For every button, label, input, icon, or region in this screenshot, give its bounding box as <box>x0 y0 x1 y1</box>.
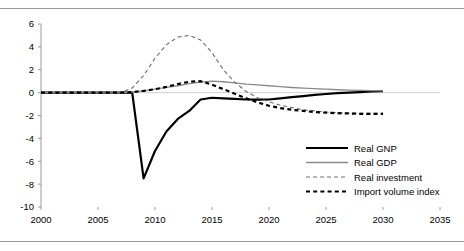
bottom-divider-rule <box>0 241 464 242</box>
line-chart: 6420-2-4-6-8-10 200020052010201520202025… <box>0 0 464 251</box>
x-tick-label: 2005 <box>87 214 108 225</box>
x-tick-label: 2015 <box>201 214 222 225</box>
x-tick-label: 2000 <box>30 214 51 225</box>
x-tick-label: 2025 <box>315 214 336 225</box>
legend-label-import-volume-index: Import volume index <box>354 186 440 197</box>
legend-label-real-gdp: Real GDP <box>354 157 397 168</box>
y-tick-label: 6 <box>29 18 34 29</box>
legend-label-real-investment: Real investment <box>354 172 422 183</box>
top-divider-rule <box>0 8 464 9</box>
y-tick-label: -8 <box>26 179 34 190</box>
y-axis-tick-labels: 6420-2-4-6-8-10 <box>20 18 34 212</box>
y-tick-label: -2 <box>26 110 34 121</box>
x-axis-tick-labels: 20002005201020152020202520302035 <box>30 214 450 225</box>
x-tick-label: 2010 <box>144 214 165 225</box>
figure-container: 6420-2-4-6-8-10 200020052010201520202025… <box>0 0 464 251</box>
y-tick-label: -4 <box>26 133 34 144</box>
x-tick-label: 2030 <box>372 214 393 225</box>
x-axis-ticks <box>41 207 440 210</box>
y-tick-label: 0 <box>29 87 34 98</box>
y-tick-label: -6 <box>26 156 34 167</box>
x-tick-label: 2035 <box>429 214 450 225</box>
y-tick-label: 2 <box>29 64 34 75</box>
x-tick-label: 2020 <box>258 214 279 225</box>
y-tick-label: 4 <box>29 41 34 52</box>
legend-label-real-gnp: Real GNP <box>354 143 397 154</box>
y-tick-label: -10 <box>20 201 34 212</box>
